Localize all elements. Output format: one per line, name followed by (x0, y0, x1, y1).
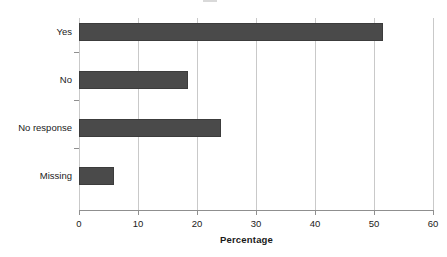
chart-title-cropped: Figure (203, 0, 217, 2)
y-axis-tick (74, 148, 79, 149)
y-axis-category-label: Missing (0, 170, 72, 181)
gridline (256, 18, 257, 210)
bar (79, 167, 114, 185)
x-axis-tick (315, 210, 316, 215)
x-axis-title-text: Percentage (220, 234, 273, 245)
x-axis-tick (79, 210, 80, 215)
bar-chart-figure: Figure 0102030405060 YesNoNo responseMis… (0, 0, 447, 257)
plot-area (79, 18, 433, 210)
y-axis-category-label: No (0, 74, 72, 85)
gridline (197, 18, 198, 210)
bar (79, 119, 221, 137)
x-axis-tick (256, 210, 257, 215)
x-axis-tick-label: 0 (59, 218, 99, 229)
y-axis-category-label: No response (0, 122, 72, 133)
x-axis-title: Percentage (0, 234, 447, 245)
gridline (138, 18, 139, 210)
x-axis-tick (197, 210, 198, 215)
bar (79, 71, 188, 89)
x-axis-tick (374, 210, 375, 215)
x-axis-tick-label: 60 (413, 218, 447, 229)
x-axis-tick-label: 50 (354, 218, 394, 229)
y-axis-tick (74, 52, 79, 53)
gridline (433, 18, 434, 210)
bar (79, 23, 383, 41)
gridline (374, 18, 375, 210)
x-axis-tick-label: 40 (295, 218, 335, 229)
x-axis-tick-label: 10 (118, 218, 158, 229)
y-axis-category-label: Yes (0, 26, 72, 37)
gridline (315, 18, 316, 210)
y-axis-tick (74, 100, 79, 101)
x-axis-tick-label: 30 (236, 218, 276, 229)
x-axis-tick (433, 210, 434, 215)
x-axis-tick-label: 20 (177, 218, 217, 229)
x-axis-tick (138, 210, 139, 215)
